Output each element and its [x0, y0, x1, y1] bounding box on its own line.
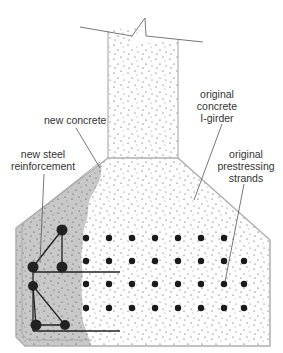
label-new-steel-reinforcement: new steel reinforcement [8, 148, 78, 172]
label-text: reinforcement [8, 160, 78, 172]
label-text: concrete [192, 100, 242, 112]
label-text: new steel [8, 148, 78, 160]
label-original-concrete-i-girder: original concrete I-girder [192, 88, 242, 124]
girder-web [108, 25, 178, 158]
break-line [80, 18, 203, 42]
leader-new-concrete [76, 128, 100, 168]
label-text: original [192, 88, 242, 100]
label-new-concrete: new concrete [44, 114, 106, 126]
label-text: original [212, 148, 280, 160]
label-original-prestressing-strands: original prestressing strands [212, 148, 280, 184]
label-text: strands [212, 172, 280, 184]
label-text: new concrete [44, 114, 106, 126]
label-text: I-girder [192, 112, 242, 124]
label-text: prestressing [212, 160, 280, 172]
